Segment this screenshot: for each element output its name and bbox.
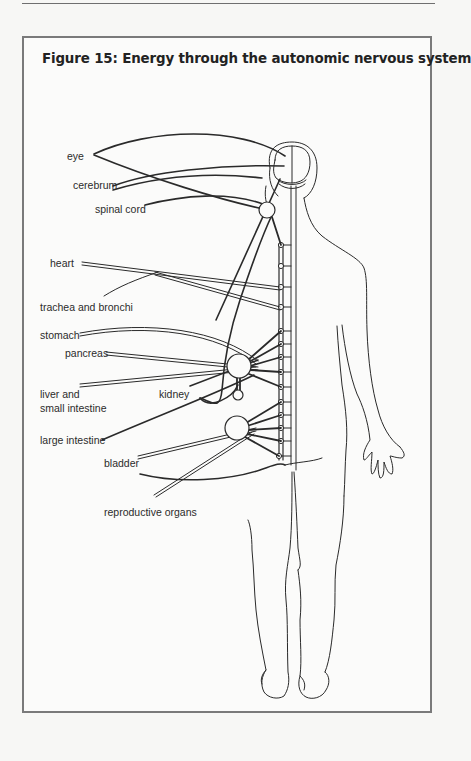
label-liver-line1: liver and [40, 388, 80, 401]
label-heart: heart [50, 257, 74, 270]
spinal-cord [291, 186, 296, 470]
label-large-intestine: large intestine [40, 434, 105, 447]
label-liver-line2: small intestine [40, 402, 107, 415]
label-reproductive-organs: reproductive organs [104, 506, 197, 519]
celiac-ganglion [227, 354, 251, 378]
label-trachea: trachea and bronchi [40, 301, 133, 314]
small-ganglion [233, 390, 243, 400]
label-bladder: bladder [104, 457, 139, 470]
label-cerebrum: cerebrum [73, 179, 117, 192]
label-kidney: kidney [159, 388, 189, 401]
label-pancreas: pancreas [65, 347, 108, 360]
label-spinal-cord: spinal cord [95, 203, 146, 216]
ganglia [225, 202, 275, 440]
mesenteric-ganglion [225, 416, 249, 440]
label-eye: eye [67, 150, 84, 163]
body-outline [248, 142, 404, 698]
cervical-ganglion [259, 202, 275, 218]
label-stomach: stomach [40, 329, 80, 342]
